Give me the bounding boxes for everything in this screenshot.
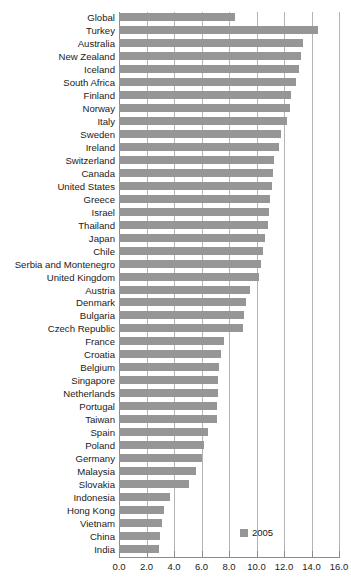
category-label: Israel (92, 207, 115, 218)
x-tick-label: 6.0 (195, 561, 208, 572)
bar-row: Switzerland (0, 155, 351, 168)
bar-row: Ireland (0, 142, 351, 155)
category-label: Belgium (80, 362, 115, 373)
category-label: Vietnam (80, 518, 115, 529)
bar (119, 311, 244, 319)
category-label: Czech Republic (48, 323, 115, 334)
category-label: Switzerland (65, 155, 115, 166)
tick-mark-2 (147, 551, 148, 557)
bar (119, 195, 270, 203)
bar-row: Portugal (0, 401, 351, 414)
bar-row: Japan (0, 233, 351, 246)
bar (119, 169, 273, 177)
bar (119, 493, 170, 501)
bar (119, 26, 318, 34)
category-label: United States (57, 181, 115, 192)
bar (119, 389, 218, 397)
bar-row: India (0, 544, 351, 557)
category-label: France (85, 336, 115, 347)
bar-row: Germany (0, 453, 351, 466)
bar-row: Croatia (0, 349, 351, 362)
category-label: Greece (84, 194, 115, 205)
x-tick-label: 4.0 (167, 561, 180, 572)
bar-row: Greece (0, 194, 351, 207)
bar-row: Belgium (0, 362, 351, 375)
category-label: Austria (85, 285, 115, 296)
bar (119, 337, 224, 345)
bar (119, 39, 303, 47)
category-label: Slovakia (79, 479, 115, 490)
legend-swatch-2005 (240, 529, 248, 537)
category-label: Bulgaria (80, 310, 115, 321)
bar (119, 376, 218, 384)
bar-row: Singapore (0, 375, 351, 388)
category-label: Singapore (71, 375, 115, 386)
bar (119, 428, 208, 436)
x-tick-label: 16.0 (330, 561, 349, 572)
x-axis-line (119, 557, 340, 558)
category-label: Japan (89, 233, 115, 244)
category-label: Finland (84, 90, 115, 101)
tick-mark-4 (174, 551, 175, 557)
legend-label-2005: 2005 (252, 528, 273, 538)
x-tick-label: 8.0 (222, 561, 235, 572)
bar (119, 234, 265, 242)
bar (119, 415, 217, 423)
bar-row: Global (0, 12, 351, 25)
category-label: United Kingdom (47, 272, 115, 283)
bar-row: Chile (0, 246, 351, 259)
category-label: Sweden (80, 129, 115, 140)
category-label: Italy (97, 116, 115, 127)
bar (119, 182, 272, 190)
bar-row: Indonesia (0, 492, 351, 505)
bar-row: Serbia and Montenegro (0, 259, 351, 272)
bar-row: Slovakia (0, 479, 351, 492)
category-label: Denmark (76, 297, 115, 308)
bar-row: Norway (0, 103, 351, 116)
bar (119, 130, 281, 138)
bar (119, 402, 217, 410)
x-tick-label: 12.0 (275, 561, 294, 572)
bar-row: United Kingdom (0, 272, 351, 285)
bar (119, 273, 259, 281)
bar-row: Turkey (0, 25, 351, 38)
category-label: China (90, 531, 115, 542)
bar-row: Thailand (0, 220, 351, 233)
chart-legend: 2005 (240, 528, 273, 538)
tick-mark-6 (202, 551, 203, 557)
bar (119, 13, 235, 21)
bar (119, 545, 159, 553)
bar (119, 208, 269, 216)
category-label: South Africa (63, 77, 115, 88)
tick-mark-16 (339, 551, 340, 557)
category-label: Turkey (86, 25, 115, 36)
bar-row: Israel (0, 207, 351, 220)
category-label: Serbia and Montenegro (15, 259, 115, 270)
category-label: Global (87, 12, 115, 23)
bar-rows: GlobalTurkeyAustraliaNew ZealandIcelandS… (0, 12, 351, 557)
category-label: Portugal (79, 401, 115, 412)
bar-row: Taiwan (0, 414, 351, 427)
x-tick-label: 10.0 (247, 561, 266, 572)
bar (119, 506, 164, 514)
bar-row: Netherlands (0, 388, 351, 401)
bar (119, 65, 299, 73)
category-label: Malaysia (77, 466, 115, 477)
category-label: Spain (90, 427, 115, 438)
category-label: Ireland (86, 142, 115, 153)
bar-row: Czech Republic (0, 323, 351, 336)
bar-row: New Zealand (0, 51, 351, 64)
bar (119, 454, 202, 462)
bar (119, 156, 274, 164)
category-label: Hong Kong (67, 505, 115, 516)
category-label: New Zealand (58, 51, 115, 62)
category-label: Taiwan (85, 414, 115, 425)
bar-row: South Africa (0, 77, 351, 90)
bar-row: Canada (0, 168, 351, 181)
category-label: Norway (82, 103, 115, 114)
bar (119, 260, 261, 268)
bar-row: Poland (0, 440, 351, 453)
bar (119, 363, 219, 371)
bar-row: China (0, 531, 351, 544)
tick-mark-8 (229, 551, 230, 557)
